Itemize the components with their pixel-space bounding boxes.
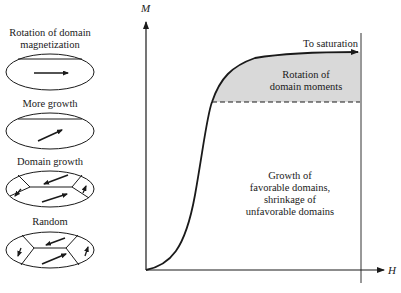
stage-label-random: Random: [0, 216, 100, 228]
growth-region-label: Growth of favorable domains, shrinkage o…: [225, 170, 355, 218]
stage-label-rotation: Rotation of domain magnetization: [0, 27, 100, 51]
domain-state-rotation: [6, 54, 94, 90]
domain-state-random: [6, 232, 94, 268]
domain-state-domain-growth: [6, 171, 94, 207]
rotation-region-label: Rotation of domain moments: [256, 69, 356, 93]
domain-state-more-growth: [6, 113, 94, 149]
y-axis-label: M: [141, 2, 150, 14]
stage-label-domain-growth: Domain growth: [0, 156, 100, 168]
stage-label-more-growth: More growth: [0, 98, 100, 110]
saturation-label: To saturation: [303, 38, 358, 50]
x-axis-label: H: [388, 264, 396, 276]
